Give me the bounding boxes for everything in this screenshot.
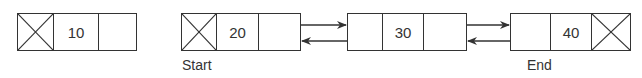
next-pointer-cell bbox=[259, 14, 300, 50]
null-cross-icon bbox=[592, 14, 630, 50]
next-pointer-cell bbox=[424, 14, 466, 50]
null-cross-icon bbox=[182, 14, 216, 50]
start-label: Start bbox=[182, 57, 212, 73]
value-cell: 20 bbox=[217, 14, 259, 50]
prev-null-cell bbox=[182, 14, 217, 50]
value-cell: 30 bbox=[383, 14, 424, 50]
node-value: 30 bbox=[395, 24, 412, 41]
node-value: 10 bbox=[68, 24, 85, 41]
null-cross-icon bbox=[18, 14, 53, 50]
list-node-30: 30 bbox=[347, 13, 467, 51]
prev-pointer-cell bbox=[348, 14, 383, 50]
prev-pointer-cell bbox=[511, 14, 551, 50]
prev-null-cell bbox=[18, 14, 54, 50]
value-cell: 40 bbox=[551, 14, 592, 50]
standalone-node: 10 bbox=[17, 13, 137, 51]
value-cell: 10 bbox=[54, 14, 99, 50]
end-label: End bbox=[527, 57, 552, 73]
next-null-cell bbox=[592, 14, 630, 50]
node-value: 40 bbox=[563, 24, 580, 41]
list-node-40: 40 bbox=[510, 13, 631, 51]
next-empty-cell bbox=[99, 14, 136, 50]
list-node-20: 20 bbox=[181, 13, 301, 51]
node-value: 20 bbox=[229, 24, 246, 41]
